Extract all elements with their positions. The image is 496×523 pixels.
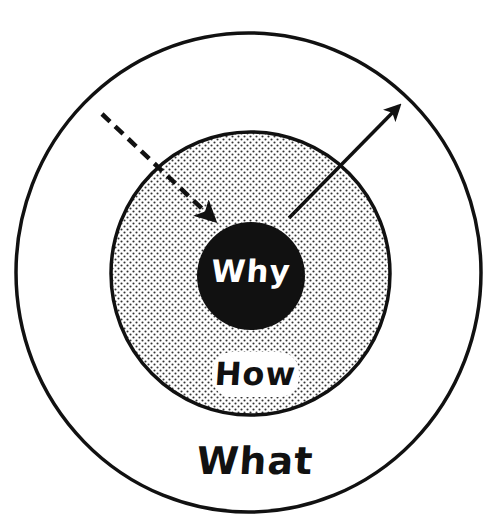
why-label: Why [200, 256, 302, 287]
what-label: What [179, 442, 332, 480]
golden-circle-diagram: Why How What [0, 0, 496, 523]
how-label: How [211, 358, 300, 390]
